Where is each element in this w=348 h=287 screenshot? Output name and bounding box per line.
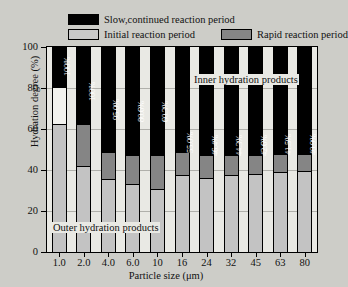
bar-value-label: 80.6% (137, 101, 146, 122)
bar-segment-initial (76, 166, 91, 252)
legend-swatch-slow-icon (68, 14, 99, 25)
bar-value-label: 41.5% (284, 134, 293, 155)
bar-value-label: 46.4% (211, 135, 220, 156)
bar-segment-initial (125, 184, 140, 252)
bar-value-label: 95.0% (112, 99, 121, 120)
bar-value-label: 55.0% (186, 132, 195, 153)
bar-value-label: 60.3% (161, 101, 170, 122)
bar-segment-rapid (273, 154, 288, 172)
legend-row-1: Slow,continued reaction period (68, 12, 318, 27)
bar-segment-void (52, 88, 67, 124)
y-axis-tick-label: 40 (28, 165, 39, 175)
legend-swatch-rapid-icon (221, 29, 252, 40)
y-axis-tick (41, 252, 46, 253)
bar-segment-initial (199, 178, 214, 252)
y-axis-tick (41, 129, 46, 130)
x-axis-label: Particle size (μm) (0, 270, 332, 281)
bar-segment-rapid (76, 124, 91, 166)
y-axis-tick-label: 0 (33, 247, 38, 257)
bar-segment-initial (101, 179, 116, 252)
legend-label-initial: Initial reaction period (104, 29, 195, 40)
bar-value-label: 40.9% (309, 134, 318, 155)
annotation-outer-hydration-products: Outer hydration products (52, 222, 160, 233)
chart-legend: Slow,continued reaction period Initial r… (68, 12, 318, 44)
bar-segment-initial (273, 172, 288, 252)
bar-segment-initial (297, 171, 312, 252)
bar-segment-initial (150, 189, 165, 252)
bar-value-label: 42.6% (260, 135, 269, 156)
y-axis-tick-label: 20 (28, 206, 39, 216)
annotation-inner-hydration-products: Inner hydration products (193, 74, 299, 85)
y-axis-tick (41, 170, 46, 171)
x-axis-tick-label: 80 (290, 257, 320, 268)
y-axis-tick-label: 80 (28, 83, 39, 93)
y-axis-tick (41, 47, 46, 48)
bar-segment-rapid (199, 155, 214, 179)
legend-item-slow: Slow,continued reaction period (68, 14, 235, 25)
y-axis-tick (41, 211, 46, 212)
bar-value-label: 100% (63, 57, 72, 76)
y-axis-label: Hydration degree (%) (29, 32, 40, 172)
legend-swatch-initial-icon (68, 29, 99, 40)
bar-segment-rapid (150, 155, 165, 190)
legend-label-rapid: Rapid reaction period (257, 29, 348, 40)
bar-segment-rapid (297, 154, 312, 171)
bar-value-label: 100% (88, 82, 97, 101)
bar-segment-rapid (101, 152, 116, 180)
bar-segment-rapid (125, 155, 140, 185)
legend-label-slow: Slow,continued reaction period (104, 14, 235, 25)
y-axis-tick (41, 88, 46, 89)
legend-item-rapid: Rapid reaction period (221, 29, 348, 40)
bar-segment-initial (224, 175, 239, 252)
y-axis-tick-label: 100 (22, 42, 38, 52)
legend-row-2: Initial reaction period Rapid reaction p… (68, 27, 318, 42)
bar-segment-initial (248, 174, 263, 252)
y-axis-tick-label: 60 (28, 124, 39, 134)
bar-segment-rapid (175, 152, 190, 176)
bar-segment-initial (175, 175, 190, 252)
legend-item-initial: Initial reaction period (68, 29, 195, 40)
bar-value-label: 44.3% (235, 135, 244, 156)
bar-segment-rapid (248, 155, 263, 174)
bar-segment-rapid (224, 155, 239, 176)
